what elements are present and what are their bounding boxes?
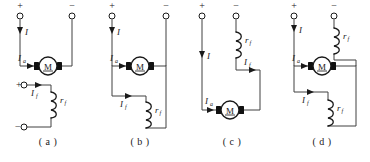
brush-left-a	[34, 62, 39, 70]
label-armature-current-sub-d: a	[297, 58, 300, 64]
label-motor-b: M	[136, 62, 144, 72]
label-field-current-c: I	[243, 57, 248, 67]
wire-field-return-c	[236, 58, 260, 110]
terminal-supply-negative-a[interactable]	[69, 13, 75, 19]
label-motor-c: M	[226, 106, 234, 116]
circuit-diagram-b: + − I I a M I f r f	[94, 0, 186, 140]
label-field-current-sub-d: f	[307, 100, 310, 106]
label-armature-current-sub-b: a	[115, 58, 118, 64]
caption-d: ( d )	[276, 136, 368, 147]
label-field-resistance-b: r	[155, 105, 159, 115]
label-armature-current-sub-c: a	[210, 101, 213, 107]
arrow-field-current-a	[35, 82, 42, 88]
circuit-panel-d: + − I r f I a M I f r f ( d	[276, 0, 368, 162]
label-motor-d: M	[318, 62, 326, 72]
arrow-line-current-b	[109, 27, 115, 34]
brush-right-c	[239, 106, 244, 114]
caption-b: ( b )	[94, 136, 186, 147]
wire-right-return-d	[328, 66, 356, 126]
circuit-panel-c: + − I r f I f I a M ( c )	[186, 0, 278, 162]
field-winding-coil-b	[146, 102, 151, 128]
label-field-current-b: I	[119, 99, 124, 109]
circuit-diagram-d: + − I r f I a M I f r f	[276, 0, 368, 140]
arrow-line-current-a	[17, 27, 23, 34]
wire-right-rail-a	[60, 20, 72, 66]
label-line-current-b: I	[116, 27, 121, 37]
brush-right-d	[331, 62, 336, 70]
label-field-current-sub-b: f	[125, 104, 128, 110]
field-winding-coil-c	[236, 32, 241, 58]
label-armature-current-c: I	[204, 96, 209, 106]
series-field-winding-coil-d	[334, 28, 339, 54]
circuit-panel-a: + − I I a M + − I	[2, 0, 94, 162]
label-shunt-field-resistance-sub-d: f	[342, 108, 345, 114]
brush-right-b	[149, 62, 154, 70]
label-armature-current-a: I	[17, 53, 22, 63]
terminal-supply-negative-c[interactable]	[233, 13, 239, 19]
terminal-supply-positive-c[interactable]	[199, 13, 205, 19]
label-field-current-a: I	[30, 88, 35, 98]
label-supply-positive-a: +	[17, 0, 23, 11]
label-armature-current-b: I	[109, 53, 114, 63]
label-field-resistance-sub-c: f	[250, 40, 253, 46]
circuit-panel-b: + − I I a M I f r f ( b )	[94, 0, 186, 162]
label-field-current-sub-a: f	[36, 93, 39, 99]
terminal-field-positive-a[interactable]	[21, 82, 27, 88]
terminal-supply-negative-d[interactable]	[331, 13, 337, 19]
label-field-resistance-sub-a: f	[65, 100, 68, 106]
label-field-current-sub-c: f	[249, 62, 252, 68]
caption-c: ( c )	[186, 136, 278, 147]
label-field-resistance-a: r	[60, 95, 64, 105]
brush-right-a	[57, 62, 62, 70]
label-supply-negative-c: −	[233, 0, 239, 11]
label-supply-negative-b: −	[163, 0, 169, 11]
label-field-positive-a: +	[16, 79, 22, 90]
label-supply-positive-b: +	[109, 0, 115, 11]
terminal-supply-negative-b[interactable]	[163, 13, 169, 19]
terminal-supply-positive-d[interactable]	[291, 13, 297, 19]
label-armature-current-d: I	[291, 53, 296, 63]
caption-a: ( a )	[2, 136, 94, 147]
arrow-field-current-d	[307, 89, 314, 95]
label-supply-positive-c: +	[199, 0, 205, 11]
arrow-line-current-d	[291, 25, 297, 32]
brush-left-d	[308, 62, 313, 70]
brush-left-b	[126, 62, 131, 70]
label-line-current-d: I	[298, 25, 303, 35]
terminal-supply-positive-b[interactable]	[109, 13, 115, 19]
label-field-resistance-c: r	[245, 35, 249, 45]
terminal-supply-positive-a[interactable]	[17, 13, 23, 19]
label-field-resistance-sub-b: f	[160, 110, 163, 116]
label-supply-negative-a: −	[69, 0, 75, 11]
terminal-field-negative-a[interactable]	[21, 124, 27, 130]
wire-field-bottom-a	[27, 118, 51, 127]
figure-root: + − I I a M + − I	[0, 0, 370, 162]
label-supply-positive-d: +	[291, 0, 297, 11]
label-armature-current-sub-a: a	[23, 58, 26, 64]
label-series-field-resistance-sub-d: f	[348, 36, 351, 42]
label-supply-negative-d: −	[331, 0, 337, 11]
label-field-negative-a: −	[15, 121, 21, 132]
label-line-current-a: I	[24, 27, 29, 37]
wire-right-rail-b	[152, 20, 166, 66]
arrow-field-current-b	[125, 93, 132, 99]
brush-left-c	[216, 106, 221, 114]
circuit-diagram-c: + − I r f I f I a M	[186, 0, 278, 140]
circuit-diagram-a: + − I I a M + − I	[2, 0, 94, 140]
label-motor-a: M	[44, 62, 52, 72]
label-shunt-field-resistance-d: r	[337, 103, 341, 113]
label-line-current-c: I	[206, 51, 211, 61]
label-field-current-d: I	[301, 95, 306, 105]
shunt-field-winding-coil-d	[328, 100, 333, 126]
arrow-armature-current-a	[27, 63, 34, 69]
arrow-armature-current-d	[301, 63, 308, 69]
arrow-line-current-c	[199, 51, 205, 58]
label-series-field-resistance-d: r	[343, 31, 347, 41]
wire-series-return-d	[334, 54, 356, 66]
arrow-armature-current-b	[119, 63, 126, 69]
arrow-armature-current-c	[207, 107, 214, 113]
field-winding-coil-a	[51, 92, 56, 118]
